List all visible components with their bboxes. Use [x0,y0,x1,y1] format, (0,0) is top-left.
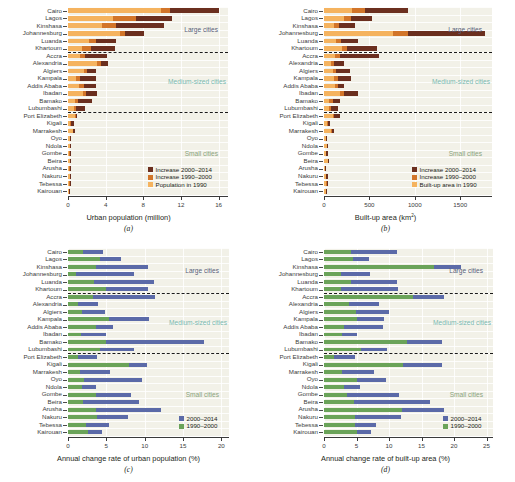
group-divider [68,293,229,294]
axis-tick-dash [319,146,323,147]
axis-tick-dash [319,350,323,351]
category-label: Alexandria [33,301,62,307]
bar-segment-increase_2000_2014 [87,69,96,74]
gridline-horizontal [324,157,492,158]
bar-segment-increase_2000_2014 [80,76,96,81]
bar-segment-base_1990 [324,16,344,21]
bar-series_1990_2000 [324,280,351,284]
bar-series_1990_2000 [324,333,342,337]
bar-segment-increase_2000_2014 [78,99,91,104]
bar-series_1990_2000 [68,295,93,299]
bar-segment-increase_2000_2014 [86,91,97,96]
axis-tick-dash [63,109,67,110]
axis-tick-dash [319,161,323,162]
gridline-horizontal [324,135,492,136]
axis-tick-dash [63,387,67,388]
category-label: Marrakesh [289,369,318,375]
axis-tick-dash [63,282,67,283]
axis-tick-dash [319,335,323,336]
bar-segment-base_1990 [324,46,342,51]
category-label: Johannesburg [23,271,62,277]
axis-tick-dash [63,146,67,147]
bar-segment-increase_2000_2014 [338,76,351,81]
bar-series_1990_2000 [324,408,402,412]
axis-tick-dash [63,357,67,358]
category-label: Khartoum [35,286,62,292]
legend-label: 1990–2000 [451,423,482,429]
category-label: Khartoum [291,45,318,51]
axis-tick-dash [63,335,67,336]
gridline-vertical [219,7,220,195]
bar-segment-increase_2000_2014 [76,106,84,111]
category-label: Algiers [299,309,318,315]
category-label: Ndola [46,384,62,390]
axis-tick-dash [63,56,67,57]
x-axis-tick [369,197,370,200]
category-label: Alexandria [33,60,62,66]
bar-segment-increase_2000_2014 [365,8,408,13]
bar-segment-base_1990 [68,23,102,28]
axis-tick-dash [63,259,67,260]
bar-series_1990_2000 [68,333,81,337]
category-label: Kinshasa [293,264,318,270]
x-axis-tick-label: 4 [104,201,107,208]
axis-tick-dash [319,365,323,366]
bar-segment-increase_2000_2014 [70,181,71,186]
axis-tick-dash [319,282,323,283]
category-label: Addis Ababa [283,324,318,330]
category-label: Kigali [303,361,318,367]
x-axis-title-d: Annual change rate of built-up area (%) [257,454,514,463]
bar-series_1990_2000 [324,385,344,389]
bar-segment-base_1990 [68,46,82,51]
panel-caption-a: (a) [0,224,257,233]
legend-swatch-base_1990 [412,182,417,187]
group-label-large-cities: Large cities [448,26,482,33]
category-label: Luanda [41,279,62,285]
category-label: Ndola [302,384,318,390]
x-axis-tick-label: 20 [218,442,225,449]
axis-tick-dash [63,169,67,170]
category-label: Khartoum [35,45,62,51]
group-label-small-cities: Small cities [185,150,218,157]
bar-segment-base_1990 [68,8,161,13]
axis-tick-dash [63,184,67,185]
axis-tick-dash [63,425,67,426]
axis-tick-dash [319,169,323,170]
bar-stacked [324,114,340,119]
bar-series_1990_2000 [68,257,100,261]
group-divider [68,52,228,53]
bar-series_1990_2000 [68,393,96,397]
bar-series_1990_2000 [68,355,78,359]
panel-caption-d: (d) [257,465,514,474]
category-label: Luanda [41,38,62,44]
bar-series_1990_2000 [68,317,109,321]
bar-stacked [68,69,96,74]
axis-tick-dash [63,312,67,313]
legend-swatch-increase_1990_2000 [412,175,417,180]
bar-series_1990_2000 [324,430,357,434]
bar-stacked [324,61,344,66]
category-label: Gombe [42,391,62,397]
axis-tick-dash [319,290,323,291]
axis-tick-dash [319,275,323,276]
bar-series_1990_2000 [324,325,344,329]
bar-segment-base_1990 [68,16,113,21]
gridline-horizontal [324,120,492,121]
legend-row: Population in 1990 [148,181,212,189]
bar-segment-increase_1990_2000 [102,23,116,28]
category-label: Johannesburg [279,271,318,277]
axis-tick-dash [63,11,67,12]
legend-swatch-series_2000_2014 [179,416,184,421]
bar-stacked [68,99,92,104]
bar-segment-increase_2000_2014 [326,136,327,141]
bar-segment-increase_1990_2000 [161,8,169,13]
bar-series_1990_2000 [68,310,82,314]
bar-segment-increase_2000_2014 [339,23,355,28]
bar-series_1990_2000 [324,287,341,291]
category-label: Bamako [39,98,62,104]
x-axis-tick [357,438,358,441]
group-label-small-cities: Small cities [449,150,482,157]
category-label: Ibadan [299,90,318,96]
legend-label: 1990–2000 [187,423,218,429]
bar-segment-base_1990 [68,91,83,96]
